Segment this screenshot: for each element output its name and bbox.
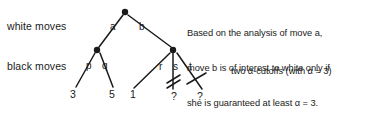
edge-label-a: a	[110, 22, 116, 32]
leaf-value-r: 1	[130, 89, 136, 100]
edge-label-q: q	[102, 61, 108, 71]
row-label-black-moves: black moves	[7, 61, 66, 72]
edge-label-p: p	[86, 61, 92, 71]
root-node	[122, 9, 128, 15]
game-tree-figure: white moves black moves a b p q r s t 3 …	[0, 0, 369, 113]
leaf-value-p: 3	[70, 89, 76, 100]
cutoff-caption: two α-cutoffs (with α = 3)	[231, 66, 331, 76]
edge-label-r: r	[159, 62, 162, 72]
analysis-note: Based on the analysis of move a, move b …	[187, 5, 330, 113]
edge-label-b: b	[139, 22, 145, 32]
edge-label-s: s	[173, 62, 178, 72]
leaf-value-s: ?	[171, 91, 177, 102]
analysis-note-line-1: Based on the analysis of move a,	[187, 28, 330, 40]
row-label-white-moves: white moves	[7, 21, 66, 32]
leaf-value-q: 5	[109, 89, 115, 100]
node-b	[170, 47, 176, 53]
edge-r	[134, 53, 170, 88]
edge-b	[128, 15, 171, 47]
node-a	[94, 47, 100, 53]
analysis-note-line-3: she is guaranteed at least α = 3.	[187, 98, 330, 110]
